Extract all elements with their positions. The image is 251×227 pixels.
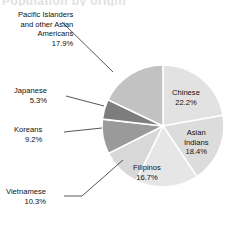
pie-slices (102, 65, 224, 187)
slice-label-koreans-name: Koreans (14, 125, 42, 134)
slice-label-asian-indians-line2: Indians (184, 138, 209, 148)
slice-label-pacific-islanders: Pacific Islanders and other Asian Americ… (18, 10, 73, 48)
slice-label-filipinos: Filipinos 16.7% (133, 163, 161, 182)
slice-label-chinese: Chinese 22.2% (172, 88, 200, 107)
chart-page: Population by origin Chinese 22.2% Asian… (0, 0, 251, 227)
slice-label-chinese-value: 22.2% (172, 98, 200, 108)
slice-label-asian-indians-value: 18.4% (184, 147, 209, 157)
japanese-leader (66, 96, 104, 106)
slice-label-pacific-islanders-line3: Americans (18, 29, 73, 39)
slice-label-japanese-name: Japanese (14, 86, 47, 95)
slice-label-koreans-value: 9.2% (14, 135, 42, 145)
slice-label-filipinos-value: 16.7% (133, 173, 161, 183)
koreans-leader (64, 128, 102, 132)
slice-label-asian-indians: Asian Indians 18.4% (184, 128, 209, 157)
slice-label-koreans: Koreans 9.2% (14, 125, 42, 144)
slice-label-japanese-value: 5.3% (14, 96, 47, 106)
slice-label-pacific-islanders-line1: Pacific Islanders (18, 10, 73, 19)
slice-label-pacific-islanders-value: 17.9% (18, 39, 73, 49)
slice-label-chinese-name: Chinese (172, 88, 200, 97)
vietnamese-leader-2 (82, 160, 123, 196)
slice-label-vietnamese-value: 10.3% (6, 197, 46, 207)
slice-label-asian-indians-line1: Asian (187, 128, 206, 137)
slice-label-pacific-islanders-line2: and other Asian (18, 20, 73, 30)
slice-label-filipinos-name: Filipinos (133, 163, 161, 172)
slice-label-japanese: Japanese 5.3% (14, 86, 47, 105)
slice-label-vietnamese-name: Vietnamese (6, 187, 46, 196)
slice-label-vietnamese: Vietnamese 10.3% (6, 187, 46, 206)
